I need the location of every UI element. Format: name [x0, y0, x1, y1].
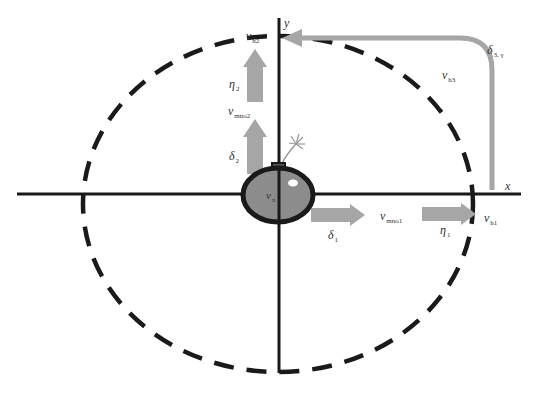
x-axis-label: x [505, 180, 510, 192]
y-axis-label: y [284, 17, 289, 29]
label-vh3: vh3 [442, 69, 455, 84]
arrow-delta1 [311, 204, 365, 226]
bomb-label: vx [266, 190, 275, 204]
label-eta2: η2 [229, 78, 239, 93]
arrow-delta2 [243, 119, 267, 174]
label-vh2: vh2 [246, 30, 259, 45]
label-vmno2: vmno2 [228, 105, 250, 120]
label-delta2: δ2 [229, 150, 239, 165]
arrow-eta1 [422, 203, 476, 225]
label-delta3: δ3, γ [487, 44, 504, 59]
label-vmno1: vmno1 [380, 210, 402, 225]
return-arrowhead [282, 29, 302, 47]
label-vh1: vh1 [484, 212, 497, 227]
return-path-arrow [300, 38, 492, 190]
label-eta1: η1 [440, 224, 450, 239]
label-delta1: δ1 [328, 229, 338, 244]
arrow-eta2 [243, 49, 267, 102]
